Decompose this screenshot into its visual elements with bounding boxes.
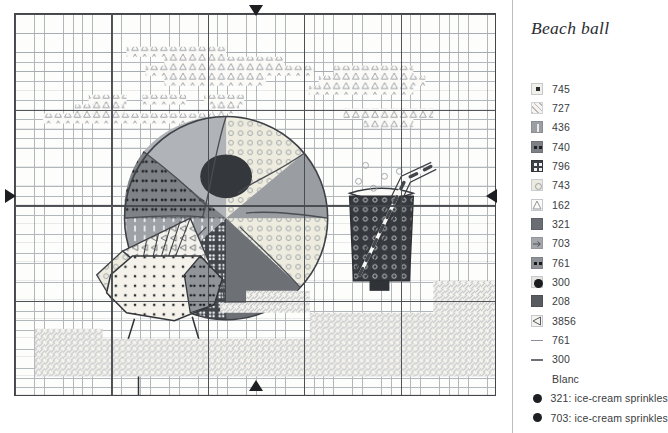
symbol-swatch-727 [531,102,543,114]
french-knot-icon [533,413,542,422]
symbol-swatch-blanc [531,373,543,385]
pattern-grid [14,13,496,396]
legend-code: 208 [552,295,570,307]
legend-panel: Beach ball 745 727 436 [512,0,668,433]
backstitch-line-icon [531,353,543,365]
legend-row: 796 [531,156,668,175]
legend-code: 743 [552,179,570,191]
legend-code: 321: ice-cream sprinkles [551,392,668,404]
symbol-swatch-321 [531,218,543,230]
legend-row: 745 [531,79,668,98]
legend-row: 740 [531,137,668,156]
right-center-marker [486,189,497,203]
legend-code: 703: ice-cream sprinkles [551,412,668,424]
symbol-swatch-208 [531,295,543,307]
legend-row: 300 [531,350,668,369]
legend-row: 321 [531,214,668,233]
pattern-page: Beach ball 745 727 436 [0,0,668,433]
legend-code: 796 [552,160,570,172]
legend-row: 300 [531,272,668,291]
legend-code: 321 [552,218,570,230]
legend-row: 761 [531,253,668,272]
legend-row: 208 [531,292,668,311]
legend-code: 300 [552,276,570,288]
legend-row: 727 [531,98,668,117]
symbol-swatch-300 [531,276,543,288]
legend-row: 761 [531,330,668,349]
legend-code: 761 [552,257,570,269]
legend-code: 436 [552,121,570,133]
symbol-swatch-703 [531,237,543,249]
symbol-swatch-740 [531,141,543,153]
legend-row: 321: ice-cream sprinkles [531,389,668,408]
legend-row: 162 [531,195,668,214]
legend-row: 436 [531,118,668,137]
legend-code: 727 [552,102,570,114]
legend-row: 743 [531,176,668,195]
bottom-center-marker [249,380,263,391]
legend-list: 745 727 436 [531,79,668,427]
legend-code: 761 [552,334,570,346]
legend-code: 300 [552,353,570,365]
legend-code: 3856 [552,315,576,327]
legend-code: Blanc [552,373,579,385]
symbol-swatch-3856 [531,315,543,327]
legend-code: 703 [552,237,570,249]
left-center-marker [5,189,16,203]
french-knot-icon [533,394,542,403]
legend-row: Blanc [531,369,668,388]
legend-row: 703: ice-cream sprinkles [531,408,668,427]
chart-panel [0,0,512,433]
symbol-swatch-743 [531,179,543,191]
legend-row: 3856 [531,311,668,330]
symbol-swatch-745 [531,83,543,95]
symbol-swatch-796 [531,160,543,172]
symbol-swatch-761 [531,257,543,269]
grid-bold-lines [15,14,495,395]
legend-code: 162 [552,199,570,211]
backstitch-line-icon [531,334,543,346]
symbol-swatch-162 [531,199,543,211]
legend-code: 745 [552,83,570,95]
legend-row: 703 [531,234,668,253]
page-title: Beach ball [531,18,609,39]
symbol-swatch-436 [531,121,543,133]
legend-code: 740 [552,141,570,153]
top-center-marker [249,5,263,16]
